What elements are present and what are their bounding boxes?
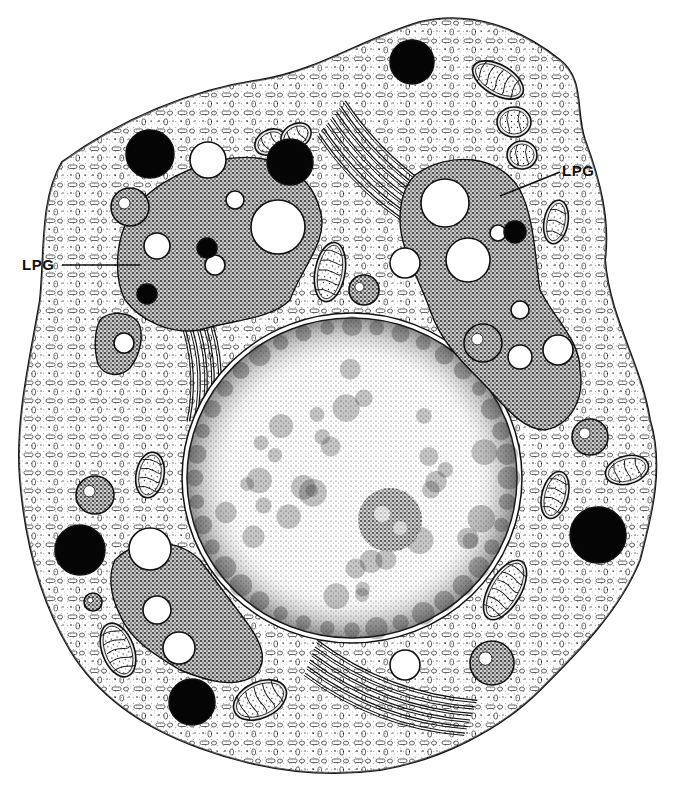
dense-granule [570,507,626,563]
multivesicular-body [111,188,149,226]
chromatin-clump [246,468,271,493]
dense-granule [126,130,174,178]
label-text: LPG [562,162,594,179]
vacuole [129,528,171,570]
vacuole [144,233,170,259]
dense-granule [390,40,434,84]
chromatin-clump [254,435,269,450]
chromatin-clump [333,394,360,421]
vacuole [390,248,420,278]
chromatin-clump [340,359,361,380]
multivesicular-body [84,593,102,611]
vacuole [508,345,532,369]
vacuole [421,179,469,227]
multivesicular-body [464,324,502,362]
vacuole [543,335,573,365]
nucleolus [358,488,422,552]
chromatin-clump [471,439,497,465]
dense-granule [55,525,105,575]
chromatin-clump [419,447,438,466]
mitochondrion [507,141,537,169]
label-text: LPG [22,256,54,273]
chromatin-clump [323,583,349,609]
dense-granule [169,679,215,725]
chromatin-clump [291,475,316,500]
vacuole [190,142,226,178]
multivesicular-body [349,275,379,305]
mitochondrion [497,107,531,137]
chromatin-clump [215,502,236,523]
vacuole [163,632,195,664]
multivesicular-body [572,419,608,455]
vacuole [226,191,244,209]
vacuole [511,301,529,319]
multivesicular-body [76,476,114,514]
chromatin-clump [425,471,446,492]
vacuole [143,596,171,624]
cell-diagram: LPGLPG [0,0,698,789]
chromatin-clump [360,550,383,573]
chromatin-clump [467,505,495,533]
vacuole [390,650,420,680]
vacuole [114,333,134,353]
chromatin-clump [268,448,282,462]
dense-granule [197,238,217,258]
chromatin-clump [276,504,301,529]
chromatin-clump [310,407,325,422]
chromatin-clump [315,429,331,445]
chromatin-clump [269,414,293,438]
vacuole [251,200,305,254]
chromatin-clump [463,533,479,549]
dense-granule [267,139,313,185]
chromatin-clump [242,526,264,548]
dense-granule [504,221,526,243]
chromatin-clump [255,497,271,513]
dense-granule [137,284,157,304]
chromatin-clump [355,588,369,602]
multivesicular-body [470,641,514,685]
chromatin-clump [416,408,432,424]
vacuole [446,238,490,282]
